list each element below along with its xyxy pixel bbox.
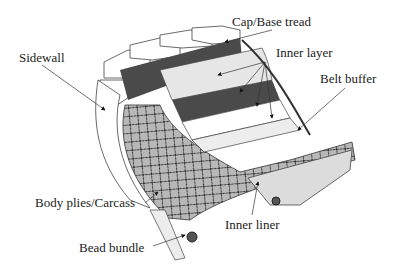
label-inner-liner: Inner liner bbox=[225, 217, 280, 233]
label-cap-base-tread: Cap/Base tread bbox=[232, 14, 311, 30]
label-bead-bundle: Bead bundle bbox=[79, 240, 144, 256]
label-belt-buffer: Belt buffer bbox=[320, 71, 376, 87]
tire-diagram bbox=[0, 0, 397, 268]
bead-bundle-right bbox=[272, 197, 280, 205]
label-inner-layer: Inner layer bbox=[276, 45, 333, 61]
label-sidewall: Sidewall bbox=[19, 50, 65, 66]
label-body-plies: Body plies/Carcass bbox=[35, 195, 135, 211]
bead-bundle-left bbox=[187, 232, 197, 242]
